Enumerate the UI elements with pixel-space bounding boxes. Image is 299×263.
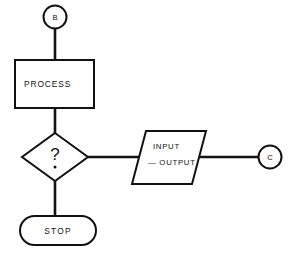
decision-dot-icon	[54, 166, 57, 169]
input-output-label-line-2: — OUTPUT	[148, 158, 196, 167]
connector-b-node[interactable]: B	[44, 6, 67, 29]
flowchart-canvas: B PROCESS ? STOP INPUT — OUTPUT C	[0, 0, 299, 263]
process-label: PROCESS	[24, 79, 71, 89]
decision-label: ?	[50, 145, 59, 164]
stop-node[interactable]: STOP	[20, 216, 96, 245]
connector-c-label: C	[267, 153, 273, 162]
connector-b-label: B	[52, 13, 57, 22]
connector-c-node[interactable]: C	[259, 146, 282, 169]
flowchart-diagram: B PROCESS ? STOP INPUT — OUTPUT C	[0, 0, 299, 263]
process-node[interactable]: PROCESS	[15, 60, 94, 108]
input-output-node[interactable]: INPUT — OUTPUT	[132, 131, 206, 184]
stop-label: STOP	[44, 226, 71, 236]
input-output-label-line-1: INPUT	[153, 142, 180, 151]
decision-node[interactable]: ?	[22, 133, 88, 181]
